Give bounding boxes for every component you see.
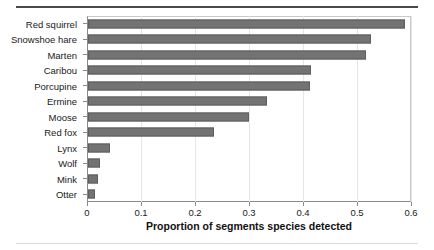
x-tick-mark xyxy=(87,202,88,206)
bar-rows: Red squirrelSnowshoe hareMartenCaribouPo… xyxy=(0,16,434,202)
y-tick-mark xyxy=(83,132,87,133)
y-tick-mark xyxy=(83,194,87,195)
bar xyxy=(88,128,214,137)
x-tick-mark xyxy=(357,202,358,206)
bar-row: Marten xyxy=(0,47,434,63)
x-tick-label: 0.3 xyxy=(242,207,255,218)
y-tick-mark xyxy=(83,147,87,148)
bar-row: Moose xyxy=(0,109,434,125)
bar-row: Porcupine xyxy=(0,78,434,94)
category-label: Red fox xyxy=(44,127,77,138)
category-label: Red squirrel xyxy=(26,18,77,29)
category-label: Otter xyxy=(56,189,77,200)
x-tick-label: 0.2 xyxy=(188,207,201,218)
x-tick-mark xyxy=(141,202,142,206)
x-tick-label: 0.1 xyxy=(134,207,147,218)
y-tick-mark xyxy=(83,163,87,164)
bar xyxy=(88,97,267,106)
bar xyxy=(88,81,310,90)
bar xyxy=(88,190,95,199)
bar xyxy=(88,35,371,44)
x-tick-mark xyxy=(249,202,250,206)
x-tick-label: 0.4 xyxy=(296,207,309,218)
bar-row: Snowshoe hare xyxy=(0,32,434,48)
bar-row: Lynx xyxy=(0,140,434,156)
y-tick-mark xyxy=(83,178,87,179)
top-divider-rule xyxy=(16,6,418,8)
y-tick-mark xyxy=(83,70,87,71)
x-tick-mark xyxy=(195,202,196,206)
bar xyxy=(88,159,100,168)
bar-row: Mink xyxy=(0,171,434,187)
bar xyxy=(88,50,366,59)
bar-row: Caribou xyxy=(0,63,434,79)
bottom-divider-rule xyxy=(16,243,418,244)
category-label: Lynx xyxy=(57,142,77,153)
x-axis-title: Proportion of segments species detected xyxy=(87,220,411,232)
y-tick-mark xyxy=(83,85,87,86)
category-label: Caribou xyxy=(44,65,77,76)
category-label: Porcupine xyxy=(34,80,77,91)
bar xyxy=(88,143,110,152)
y-tick-mark xyxy=(83,116,87,117)
x-tick-label: 0.6 xyxy=(404,207,417,218)
bar-row: Red squirrel xyxy=(0,16,434,32)
x-tick-mark xyxy=(411,202,412,206)
y-tick-mark xyxy=(83,23,87,24)
category-label: Snowshoe hare xyxy=(11,34,77,45)
x-tick-label: 0 xyxy=(84,207,89,218)
bar-row: Wolf xyxy=(0,156,434,172)
bar xyxy=(88,66,311,75)
category-label: Moose xyxy=(48,111,77,122)
y-tick-mark xyxy=(83,39,87,40)
bar-row: Red fox xyxy=(0,125,434,141)
bar-row: Otter xyxy=(0,187,434,203)
bar xyxy=(88,112,249,121)
bar xyxy=(88,174,98,183)
bar xyxy=(88,19,405,28)
x-tick-label: 0.5 xyxy=(350,207,363,218)
x-tick-mark xyxy=(303,202,304,206)
bar-chart-figure: Red squirrelSnowshoe hareMartenCaribouPo… xyxy=(0,0,434,250)
category-label: Marten xyxy=(47,49,77,60)
category-label: Mink xyxy=(57,173,77,184)
y-tick-mark xyxy=(83,54,87,55)
y-tick-mark xyxy=(83,101,87,102)
bar-row: Ermine xyxy=(0,94,434,110)
category-label: Wolf xyxy=(58,158,77,169)
category-label: Ermine xyxy=(47,96,77,107)
